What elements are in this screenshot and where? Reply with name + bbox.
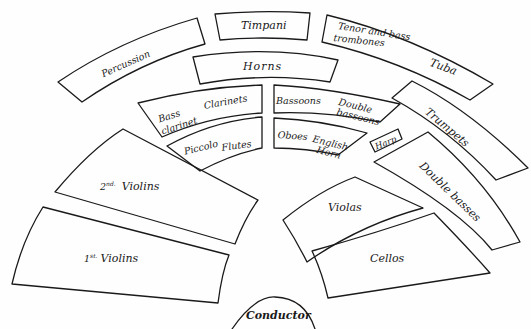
second-violins-label: 2nd. Violins [100,181,159,192]
second-violins-text: Violins [122,180,160,193]
cellos-label: Cellos [370,253,404,264]
orchestra-diagram: Percussion Timpani Tenor and bass trombo… [0,0,531,329]
first-violins-suffix: st. [90,252,97,259]
violas-section [283,177,423,262]
horns-label: Horns [243,61,282,72]
bassoons-label: Bassoons [276,96,321,106]
timpani-label: Timpani [241,20,287,31]
conductor-label: Conductor [246,310,311,321]
violas-label: Violas [328,202,362,213]
second-violins-suffix: nd. [106,180,116,187]
first-violins-label: 1st. Violins [84,253,138,264]
oboes-label: Oboes [277,130,308,142]
first-violins-text: Violins [100,252,138,265]
seating-shapes [0,0,531,329]
